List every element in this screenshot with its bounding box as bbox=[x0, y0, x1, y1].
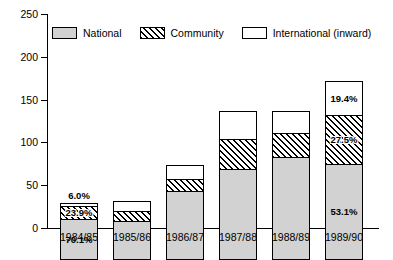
bar-segment-national bbox=[272, 157, 310, 260]
y-tick-0 bbox=[41, 228, 47, 229]
bar-1985-86 bbox=[113, 31, 151, 259]
bar-1987-88 bbox=[219, 31, 257, 259]
bar-segment-community bbox=[219, 139, 257, 170]
bar-label-national: 53.1% bbox=[326, 207, 362, 217]
bar-label-international: 19.4% bbox=[326, 94, 362, 104]
bar-segment-international bbox=[166, 165, 204, 180]
bar-label-community: 27.5% bbox=[326, 135, 362, 145]
y-tick-label-100: 100 bbox=[0, 137, 38, 148]
bar-segment-community bbox=[272, 133, 310, 158]
y-tick-150 bbox=[41, 100, 47, 101]
x-label-1989-90: 1989/90 bbox=[309, 232, 379, 243]
bar-segment-international bbox=[272, 111, 310, 134]
bar-label-community: 23.9% bbox=[61, 208, 97, 218]
bar-1989-90: 19.4% 27.5% 53.1% bbox=[325, 31, 363, 259]
bar-label-international: 6.0% bbox=[61, 191, 97, 201]
bar-segment-community: 23.9% bbox=[60, 206, 98, 220]
bar-1988-89 bbox=[272, 31, 310, 259]
bar-segment-national: 53.1% bbox=[325, 164, 363, 260]
y-tick-200 bbox=[41, 57, 47, 58]
bar-segment-national bbox=[219, 169, 257, 260]
y-tick-250 bbox=[41, 14, 47, 15]
bar-segment-national bbox=[166, 191, 204, 260]
y-tick-label-0: 0 bbox=[0, 223, 38, 234]
y-axis-line bbox=[47, 14, 48, 229]
y-tick-50 bbox=[41, 185, 47, 186]
bar-segment-international bbox=[219, 111, 257, 140]
bar-1984-85: 6.0% 23.9% 70.1% bbox=[60, 31, 98, 259]
y-tick-label-50: 50 bbox=[0, 180, 38, 191]
y-tick-100 bbox=[41, 142, 47, 143]
bar-1986-87 bbox=[166, 31, 204, 259]
bar-segment-community: 27.5% bbox=[325, 115, 363, 165]
y-tick-label-250: 250 bbox=[0, 9, 38, 20]
bar-segment-international: 19.4% bbox=[325, 81, 363, 116]
y-tick-label-200: 200 bbox=[0, 52, 38, 63]
y-tick-label-150: 150 bbox=[0, 95, 38, 106]
